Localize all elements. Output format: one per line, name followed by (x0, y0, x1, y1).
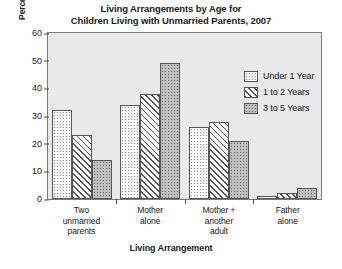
y-tick-50: 50 (32, 56, 48, 65)
chart-title-line-2: Children Living with Unmarried Parents, … (0, 15, 342, 27)
bar (52, 110, 72, 199)
bar (160, 63, 180, 199)
bar-groups (48, 33, 321, 199)
bar-group-1 (48, 33, 116, 199)
x-tick-label-2: Mother alone (116, 205, 185, 237)
bar (92, 160, 112, 199)
x-axis-tick-labels: Two unmarried parentsMother aloneMother … (47, 205, 322, 237)
legend-label-under-1-year: Under 1 Year (263, 71, 314, 82)
legend-label-1-to-2-years: 1 to 2 Years (263, 87, 309, 98)
y-tick-10: 10 (32, 167, 48, 176)
y-axis-label: Percentage of Children (17, 0, 27, 59)
bar (209, 122, 229, 199)
bar (257, 196, 277, 199)
y-tick-30: 30 (32, 112, 48, 121)
bar (229, 141, 249, 199)
chart-title-line-1: Living Arrangements by Age for (0, 3, 342, 15)
legend-item-under-1-year: Under 1 Year (244, 71, 314, 82)
legend-swatch-icon-under-1-year (244, 71, 258, 82)
bar (297, 188, 317, 199)
x-axis-label: Living Arrangement (0, 243, 342, 253)
plot-area: Percentage of Children 6050403020100 Und… (47, 32, 322, 200)
y-tick-40: 40 (32, 84, 48, 93)
bar (120, 105, 140, 199)
y-tick-0: 0 (37, 195, 48, 204)
legend-swatch-icon-1-to-2-years (244, 87, 258, 98)
bar-chart: Living Arrangements by Age for Children … (0, 0, 342, 269)
legend-label-3-to-5-years: 3 to 5 Years (263, 103, 309, 114)
x-tick-label-4: Father alone (253, 205, 322, 237)
y-tick-60: 60 (32, 29, 48, 38)
bar (72, 135, 92, 199)
legend-item-1-to-2-years: 1 to 2 Years (244, 87, 314, 98)
bar (277, 193, 297, 199)
legend-swatch-icon-3-to-5-years (244, 103, 258, 114)
bar-group-2 (116, 33, 184, 199)
chart-legend: Under 1 Year 1 to 2 Years 3 to 5 Years (244, 71, 314, 114)
bar (140, 94, 160, 199)
x-tick-label-1: Two unmarried parents (47, 205, 116, 237)
bar-group-3 (185, 33, 253, 199)
y-tick-20: 20 (32, 139, 48, 148)
chart-title: Living Arrangements by Age for Children … (0, 3, 342, 26)
legend-item-3-to-5-years: 3 to 5 Years (244, 103, 314, 114)
bar-group-4 (253, 33, 321, 199)
x-tick-label-3: Mother + another adult (185, 205, 254, 237)
bar (189, 127, 209, 199)
